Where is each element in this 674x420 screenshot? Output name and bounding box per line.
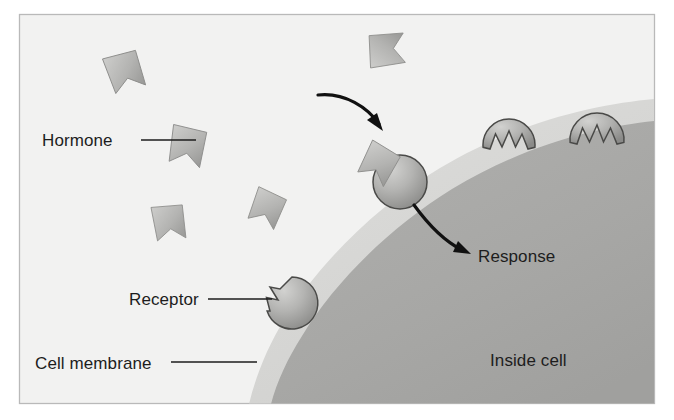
diagram-canvas: Hormone Receptor Cell membrane Response …: [0, 0, 674, 420]
label-hormone: Hormone: [42, 131, 113, 150]
label-response: Response: [478, 247, 555, 266]
hormone-receptor-diagram: Hormone Receptor Cell membrane Response …: [0, 0, 674, 420]
label-receptor: Receptor: [129, 290, 199, 309]
label-cell-membrane: Cell membrane: [35, 354, 152, 373]
label-inside-cell: Inside cell: [490, 351, 567, 370]
